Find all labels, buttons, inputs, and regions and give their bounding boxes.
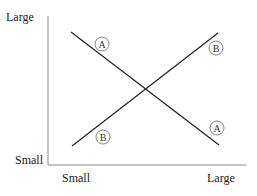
marker-b-upper-label: B: [213, 43, 220, 54]
x-axis-left-label: Small: [62, 172, 90, 184]
y-axis-bottom-label: Small: [15, 154, 43, 166]
marker-b-lower: B: [96, 130, 110, 144]
marker-a-upper: A: [95, 37, 109, 51]
marker-a-lower: A: [210, 121, 224, 135]
y-axis-top-label: Large: [6, 11, 34, 23]
marker-a-lower-label: A: [213, 123, 221, 134]
x-axis-right-label: Large: [207, 172, 235, 184]
marker-b-upper: B: [209, 41, 223, 55]
marker-b-lower-label: B: [100, 132, 107, 143]
marker-a-upper-label: A: [98, 39, 106, 50]
